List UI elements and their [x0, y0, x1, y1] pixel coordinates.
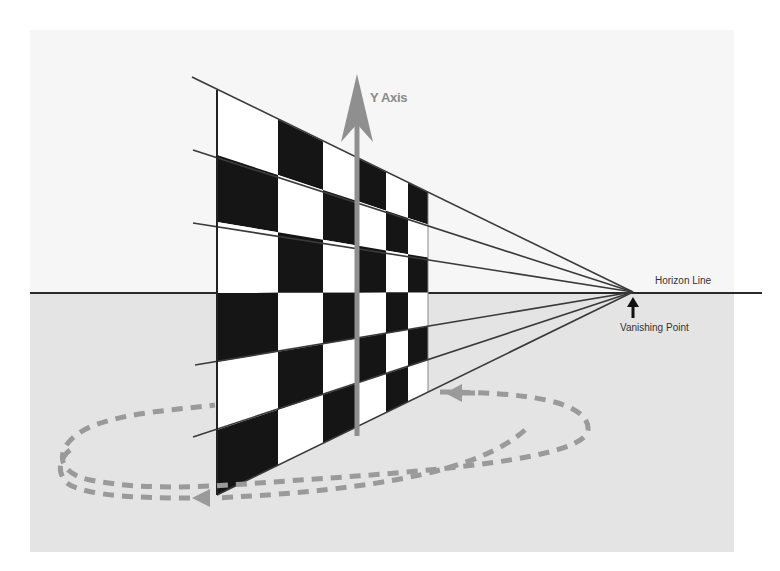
rotation-path-bottom-left: [60, 447, 190, 498]
checker-cell: [386, 293, 408, 334]
checker-cell: [408, 292, 428, 329]
checker-cell: [323, 293, 357, 345]
checker-cell: [386, 211, 408, 254]
rotation-arrowhead-bottom: [192, 489, 210, 507]
checker-cell: [217, 222, 278, 293]
checker-cell: [278, 232, 323, 293]
y-axis-label: Y Axis: [370, 90, 407, 105]
vanishing-point-arrowhead: [627, 297, 639, 307]
checker-cell: [408, 183, 428, 225]
vanishing-point-label: Vanishing Point: [620, 322, 689, 333]
checker-cell: [408, 218, 428, 258]
checkerboard-plane: [217, 90, 428, 495]
checker-cell: [357, 293, 386, 339]
checker-cell: [408, 360, 428, 402]
checker-cell: [386, 367, 408, 413]
horizon-line-label: Horizon Line: [655, 275, 711, 286]
checker-cell: [386, 172, 408, 218]
checker-cell: [217, 293, 278, 362]
perspective-diagram: Y Axis Horizon Line Vanishing Point: [0, 0, 780, 571]
checker-cell: [278, 293, 323, 352]
